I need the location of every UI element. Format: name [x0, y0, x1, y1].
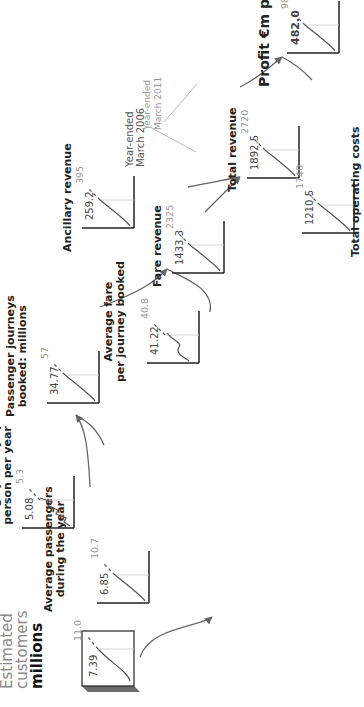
avg-journeys-title: Average journeys per person per year — [0, 409, 14, 542]
profit-projection: 980 — [279, 0, 290, 9]
total-operating-costs-history-line — [320, 205, 350, 231]
customers-projection: 11.0 — [72, 620, 83, 641]
total-revenue-projection: 2720 — [239, 110, 250, 134]
avg-journeys-value: 5.08 — [24, 498, 35, 520]
arrow-costs-to-profit — [282, 57, 312, 80]
ancillary-revenue-value: 259.2 — [84, 191, 95, 220]
profit-value: 482.0 — [289, 10, 302, 45]
total-revenue-history-line — [265, 150, 295, 176]
total-revenue-title: Total revenue — [227, 107, 239, 192]
value-driver-diagram: Estimated customers millions 7.39 11.0 A… — [0, 0, 364, 707]
avg-fare-history-line — [167, 333, 189, 361]
avg-passengers-value: 6.85 — [99, 573, 110, 595]
total-operating-costs-projection: 1740 — [294, 165, 305, 189]
avg-journeys-projection: 5.3 — [14, 469, 25, 484]
customers-value: 7.39 — [88, 655, 99, 677]
avg-passengers-history-line — [115, 575, 145, 601]
legend-leader-2011 — [164, 84, 197, 122]
passenger-journeys-projection: 57 — [39, 347, 50, 359]
passenger-journeys-title: Passenger journeys booked: millions — [5, 295, 29, 417]
legend-2011: Year-ended March 2011 — [142, 77, 164, 130]
ancillary-revenue-projection: 395 — [74, 166, 85, 184]
total-revenue-value: 1892.5 — [249, 135, 260, 170]
legend-leader-2006 — [150, 127, 196, 152]
avg-journeys-history-line — [40, 498, 70, 526]
ancillary-revenue-history-line — [100, 200, 130, 226]
avg-passengers-projection: 10.7 — [89, 538, 100, 559]
profit-history-line — [305, 25, 335, 51]
avg-fare-value: 41.22 — [149, 326, 160, 355]
avg-fare-projection: 40.8 — [139, 298, 150, 319]
arrow-avg-journeys-to-journeys — [76, 415, 104, 445]
fare-revenue-history-line — [190, 245, 220, 271]
fare-revenue-value: 1433.3 — [174, 230, 185, 265]
ancillary-revenue-title: Ancillary revenue — [62, 143, 74, 252]
node-estimated-customers: Estimated customers millions 7.39 11.0 — [0, 617, 180, 707]
fare-revenue-projection: 2325 — [164, 205, 175, 229]
total-operating-costs-value: 1210.5 — [304, 190, 315, 225]
passenger-journeys-history-line — [65, 375, 95, 401]
profit-title: Profit €m p.a. — [257, 0, 272, 87]
passenger-journeys-value: 34.77 — [49, 366, 60, 395]
fare-revenue-title: Fare revenue — [152, 205, 164, 287]
avg-fare-title: Average fare per journey booked — [103, 261, 127, 382]
